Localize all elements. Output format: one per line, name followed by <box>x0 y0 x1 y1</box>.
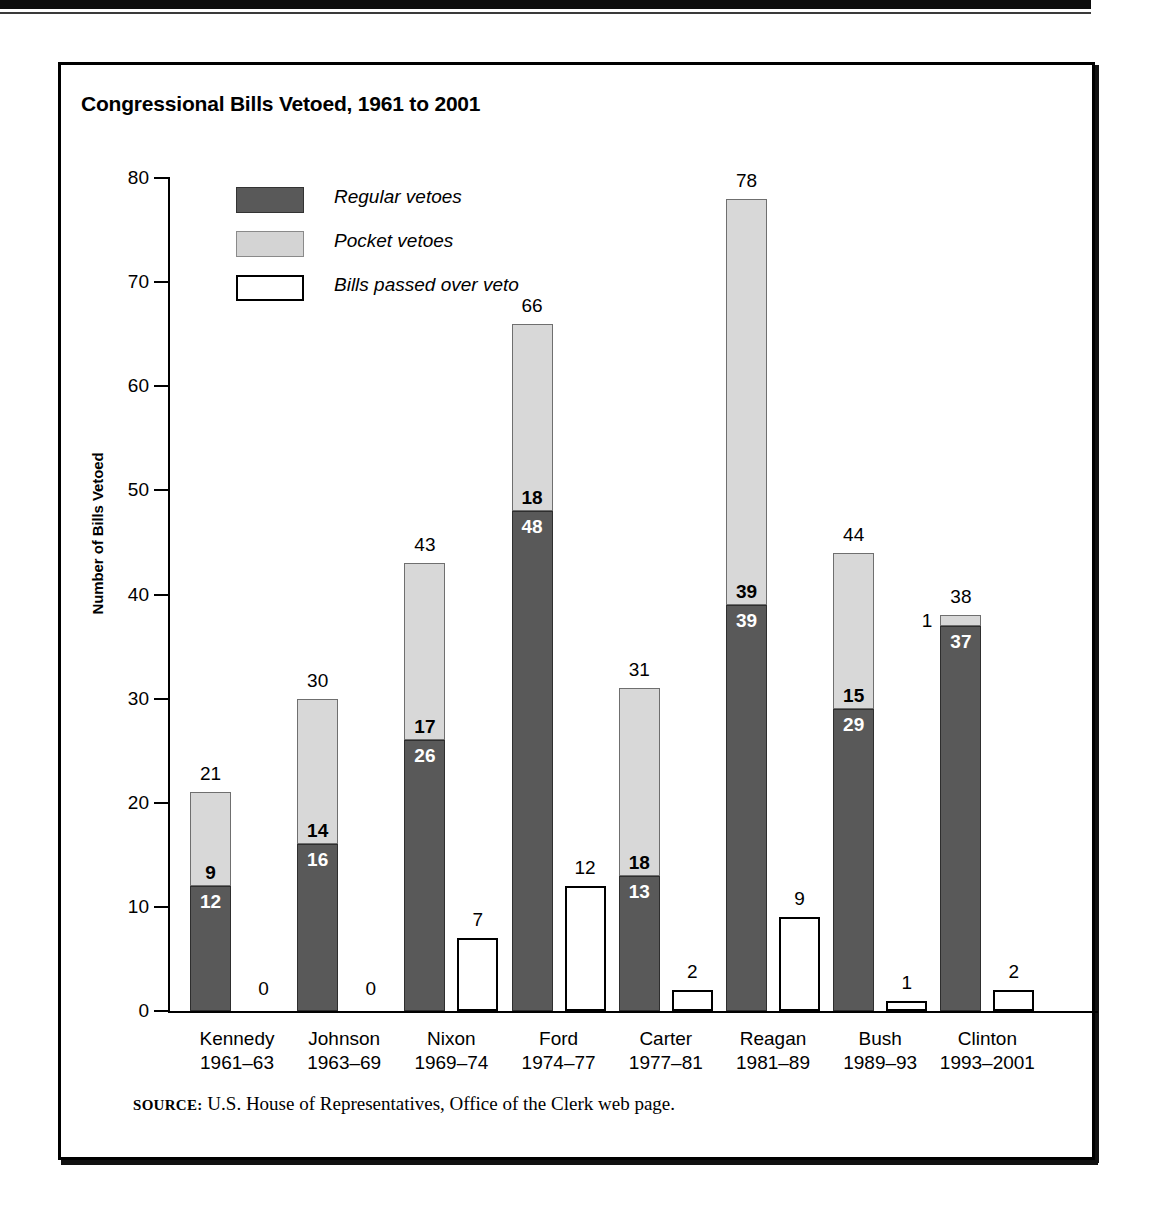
bar-segment-pocket-vetoes: 18 <box>619 688 660 875</box>
y-axis-tick <box>154 594 170 596</box>
bar-segment-regular-vetoes: 39 <box>726 605 767 1011</box>
source-word: SOURCE: <box>133 1097 203 1113</box>
white-swatch-icon <box>236 275 304 301</box>
bar-segment-value: 9 <box>191 863 230 882</box>
chart-frame: Congressional Bills Vetoed, 1961 to 2001… <box>58 62 1095 1160</box>
y-axis-title: Number of Bills Vetoed <box>89 424 106 644</box>
x-axis-category-clinton: Clinton1993–2001 <box>908 1027 1066 1075</box>
bar-value-label-zero: 0 <box>223 979 304 998</box>
bar-value-label: 1 <box>866 973 947 992</box>
y-axis-tick <box>154 802 170 804</box>
bar-segment-value-outside: 1 <box>896 611 932 630</box>
bar-segment-regular-vetoes: 26 <box>404 740 445 1011</box>
bar-value-label: 12 <box>545 858 626 877</box>
y-axis-tick <box>154 489 170 491</box>
source-note: SOURCE: U.S. House of Representatives, O… <box>133 1093 675 1115</box>
y-axis-tick-label: 60 <box>77 376 149 395</box>
y-axis-tick-label: 30 <box>77 689 149 708</box>
bar-segment-value: 39 <box>727 582 766 601</box>
y-axis-tick <box>154 385 170 387</box>
bar-value-label: 2 <box>652 962 733 981</box>
y-axis-tick-label: 70 <box>77 272 149 291</box>
bar-segment-regular-vetoes: 37 <box>940 626 981 1011</box>
y-axis-tick-label-wrap: 80 <box>71 168 149 187</box>
y-axis-tick-label: 10 <box>77 897 149 916</box>
bar-segment-value: 12 <box>191 892 230 911</box>
bar-segment-value: 15 <box>834 686 873 705</box>
bar-segment-pocket-vetoes: 17 <box>404 563 445 740</box>
bar-segment-pocket-vetoes: 14 <box>297 699 338 845</box>
y-axis-tick <box>154 1010 170 1012</box>
y-axis-tick <box>154 698 170 700</box>
bar-segment-value: 18 <box>620 853 659 872</box>
y-axis-tick <box>154 906 170 908</box>
plot-area: 01020304050607080 Number of Bills Vetoed… <box>61 65 1092 1157</box>
y-axis-tick-label-wrap: 40 <box>71 585 149 604</box>
bar-segment-value: 26 <box>405 746 444 765</box>
bar-segment-value: 14 <box>298 821 337 840</box>
bar-segment-regular-vetoes: 29 <box>833 709 874 1011</box>
x-axis-line <box>168 1011 1098 1013</box>
legend-label-pocket-vetoes: Pocket vetoes <box>334 230 453 252</box>
y-axis-tick-label-wrap: 10 <box>71 897 149 916</box>
bar-total-label: 66 <box>492 296 573 315</box>
bar-total-label: 78 <box>706 171 787 190</box>
bar-total-label: 44 <box>813 525 894 544</box>
bar-bills-passed-over-veto <box>886 1001 927 1011</box>
bar-bills-passed-over-veto <box>779 917 820 1011</box>
dark-gray-swatch-icon <box>236 187 304 213</box>
y-axis-tick-label-wrap: 60 <box>71 376 149 395</box>
frame-shadow-bottom <box>61 1160 1098 1165</box>
y-axis-tick-label-wrap: 0 <box>71 1001 149 1020</box>
category-years: 1993–2001 <box>908 1051 1066 1075</box>
bar-value-label: 9 <box>759 889 840 908</box>
bar-total-label: 30 <box>277 671 358 690</box>
bar-total-label: 38 <box>920 587 1001 606</box>
page-top-rule <box>0 0 1091 9</box>
bar-segment-regular-vetoes: 48 <box>512 511 553 1011</box>
bar-total-label: 21 <box>170 764 251 783</box>
bar-segment-value: 13 <box>620 882 659 901</box>
bar-segment-pocket-vetoes: 18 <box>512 324 553 511</box>
bar-segment-pocket-vetoes: 15 <box>833 553 874 709</box>
y-axis-tick-label-wrap: 20 <box>71 793 149 812</box>
bar-value-label-zero: 0 <box>330 979 411 998</box>
bar-bills-passed-over-veto <box>565 886 606 1011</box>
bar-segment-value: 29 <box>834 715 873 734</box>
bar-bills-passed-over-veto <box>993 990 1034 1011</box>
bar-segment-value: 48 <box>513 517 552 536</box>
bar-segment-pocket-vetoes <box>940 615 981 625</box>
bar-segment-pocket-vetoes: 39 <box>726 199 767 605</box>
bar-value-label: 7 <box>437 910 518 929</box>
legend-label-bills-passed-over-veto: Bills passed over veto <box>334 274 519 296</box>
bar-total-label: 31 <box>599 660 680 679</box>
bar-bills-passed-over-veto <box>672 990 713 1011</box>
bar-segment-value: 18 <box>513 488 552 507</box>
frame-shadow-right <box>1095 65 1099 1163</box>
y-axis-tick <box>154 281 170 283</box>
category-name: Clinton <box>908 1027 1066 1051</box>
y-axis-tick-label: 20 <box>77 793 149 812</box>
bar-segment-value: 16 <box>298 850 337 869</box>
y-axis-tick-label-wrap: 50 <box>71 480 149 499</box>
page-top-rule-thin <box>0 12 1091 14</box>
y-axis-tick-label: 80 <box>77 168 149 187</box>
light-gray-swatch-icon <box>236 231 304 257</box>
bar-segment-regular-vetoes: 13 <box>619 876 660 1011</box>
bar-segment-value: 17 <box>405 717 444 736</box>
bar-segment-value: 39 <box>727 611 766 630</box>
bar-segment-pocket-vetoes: 9 <box>190 792 231 886</box>
legend-label-regular-vetoes: Regular vetoes <box>334 186 462 208</box>
bar-bills-passed-over-veto <box>457 938 498 1011</box>
bar-value-label: 2 <box>973 962 1054 981</box>
y-axis-tick-label-wrap: 30 <box>71 689 149 708</box>
y-axis-tick <box>154 177 170 179</box>
source-text: U.S. House of Representatives, Office of… <box>203 1093 675 1114</box>
bar-total-label: 43 <box>384 535 465 554</box>
y-axis-tick-label-wrap: 70 <box>71 272 149 291</box>
bar-segment-value: 37 <box>941 632 980 651</box>
y-axis-tick-label: 0 <box>77 1001 149 1020</box>
